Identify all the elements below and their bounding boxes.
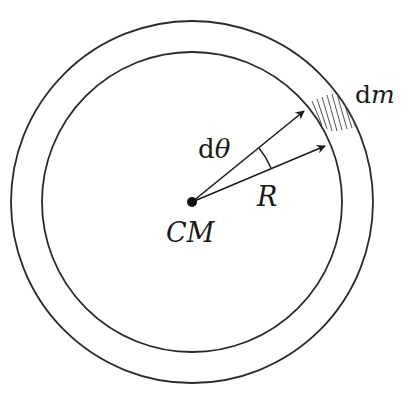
center-of-mass-dot — [187, 197, 197, 207]
radius-label: R — [256, 181, 277, 212]
ring-diagram: dm dθ R CM — [0, 0, 415, 396]
angle-label: dθ — [198, 134, 231, 164]
center-of-mass-label: CM — [166, 217, 216, 248]
mass-element-label: dm — [355, 80, 395, 109]
angle-arc — [259, 148, 271, 168]
